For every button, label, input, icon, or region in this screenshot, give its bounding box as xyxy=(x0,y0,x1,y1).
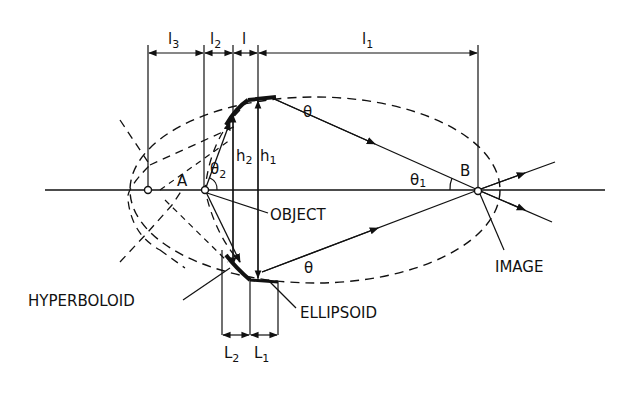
label-l1: l1 xyxy=(362,30,373,51)
theta1-arc xyxy=(450,178,452,190)
label-A: A xyxy=(177,172,188,190)
label-h2: h2 xyxy=(236,147,253,167)
image-leader xyxy=(480,194,504,250)
hyperboloid-mirror-top xyxy=(226,100,248,125)
label-L1: L1 xyxy=(254,344,269,365)
ellipsoid-leader xyxy=(268,280,296,308)
point-focus-left xyxy=(145,187,152,194)
ray-bottom-arrow xyxy=(262,228,378,272)
label-object: OBJECT xyxy=(270,206,326,224)
theta2-arc xyxy=(210,178,217,190)
ray-top-arrow xyxy=(272,98,375,144)
label-l2: l2 xyxy=(210,30,221,51)
ray-extension-top2-dashed xyxy=(160,140,230,190)
label-theta-top: θ xyxy=(303,103,312,121)
object-leader xyxy=(207,193,268,213)
ray-extension-top-dashed xyxy=(150,125,238,165)
label-theta-bottom: θ xyxy=(304,259,313,277)
hyperbola-inner-dashed xyxy=(205,110,240,262)
label-l: l xyxy=(242,30,246,48)
hyperbola-x-dashed xyxy=(120,190,182,262)
label-B: B xyxy=(460,162,470,180)
ray-object-to-hyperboloid-top xyxy=(205,122,230,190)
label-hyperboloid: HYPERBOLOID xyxy=(28,292,135,310)
label-h1: h1 xyxy=(260,147,277,167)
optical-diagram: l3 l2 l l1 A B θ2 θ1 θ θ h2 h1 OBJECT IM… xyxy=(0,0,625,395)
label-image: IMAGE xyxy=(495,258,543,276)
label-ellipsoid: ELLIPSOID xyxy=(300,304,377,322)
label-theta1: θ1 xyxy=(410,171,426,190)
ray-B-out-up-arrow xyxy=(478,173,525,190)
label-L2: L2 xyxy=(224,344,239,365)
point-B-image xyxy=(475,188,482,195)
point-A-object xyxy=(202,187,209,194)
label-theta2: θ2 xyxy=(210,160,226,181)
label-l3: l3 xyxy=(168,30,179,51)
mirror-bottom-outline-right xyxy=(270,282,278,335)
diagram-canvas: l3 l2 l l1 A B θ2 θ1 θ θ h2 h1 OBJECT IM… xyxy=(0,0,625,395)
hyperboloid-leader xyxy=(183,268,230,300)
hyperbola-left-dashed xyxy=(120,120,185,268)
